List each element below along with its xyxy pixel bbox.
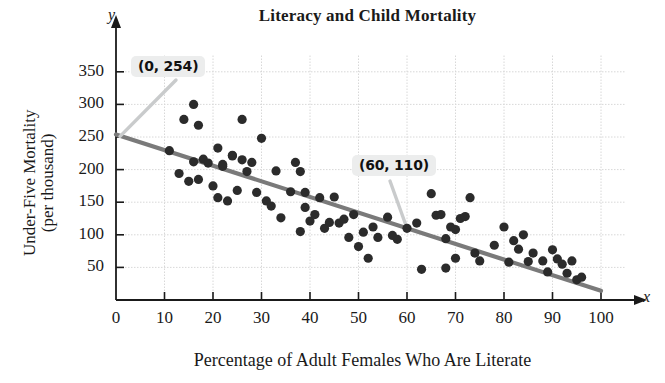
y-tick-label: 250 xyxy=(62,126,104,146)
data-point xyxy=(364,254,373,263)
x-tick-label: 60 xyxy=(387,308,427,328)
data-points xyxy=(165,100,586,285)
data-point xyxy=(204,158,213,167)
callout-leader-line xyxy=(390,181,407,228)
x-tick-label: 40 xyxy=(290,308,330,328)
data-point xyxy=(301,203,310,212)
data-point xyxy=(213,193,222,202)
data-point xyxy=(417,265,426,274)
data-point xyxy=(330,192,339,201)
y-tick-label: 100 xyxy=(62,224,104,244)
x-tick-label: 70 xyxy=(436,308,476,328)
data-point xyxy=(519,230,528,239)
data-point xyxy=(509,236,518,245)
data-point xyxy=(567,256,576,265)
data-point xyxy=(562,269,571,278)
data-point xyxy=(538,256,547,265)
data-point xyxy=(194,121,203,130)
data-point xyxy=(247,158,256,167)
y-tick-label: 350 xyxy=(62,61,104,81)
x-tick-label: 100 xyxy=(581,308,621,328)
y-tick-label: 300 xyxy=(62,93,104,113)
x-axis-arrowhead xyxy=(634,295,647,305)
data-point xyxy=(271,166,280,175)
data-point xyxy=(475,256,484,265)
data-point xyxy=(402,224,411,233)
data-point xyxy=(213,143,222,152)
data-point xyxy=(238,115,247,124)
data-point xyxy=(451,254,460,263)
x-tick-label: 0 xyxy=(96,308,136,328)
data-point xyxy=(499,222,508,231)
y-tick-label: 200 xyxy=(62,159,104,179)
x-tick-label: 30 xyxy=(242,308,282,328)
data-point xyxy=(504,258,513,267)
data-point xyxy=(436,210,445,219)
data-point xyxy=(276,213,285,222)
data-point xyxy=(577,273,586,282)
data-point xyxy=(373,233,382,242)
annotation-point-60-110: (60, 110) xyxy=(352,155,436,176)
data-point xyxy=(189,157,198,166)
x-tick-label: 20 xyxy=(193,308,233,328)
data-point xyxy=(296,167,305,176)
data-point xyxy=(441,263,450,272)
data-point xyxy=(451,225,460,234)
data-point xyxy=(490,241,499,250)
data-point xyxy=(301,188,310,197)
data-point xyxy=(286,187,295,196)
y-axis-arrowhead xyxy=(111,15,121,28)
x-tick-label: 50 xyxy=(339,308,379,328)
data-point xyxy=(543,267,552,276)
data-point xyxy=(368,222,377,231)
data-point xyxy=(359,228,368,237)
y-tick-label: 50 xyxy=(62,256,104,276)
data-point xyxy=(349,210,358,219)
data-point xyxy=(393,235,402,244)
data-point xyxy=(524,257,533,266)
y-tick-label: 150 xyxy=(62,191,104,211)
data-point xyxy=(252,188,261,197)
data-point xyxy=(344,233,353,242)
data-point xyxy=(257,134,266,143)
data-point xyxy=(412,218,421,227)
data-point xyxy=(194,175,203,184)
callout-leader-line xyxy=(120,80,176,136)
chart-figure: Literacy and Child Mortality Under-Five … xyxy=(0,0,665,383)
data-point xyxy=(470,248,479,257)
data-point xyxy=(233,186,242,195)
annotation-y-intercept: (0, 254) xyxy=(131,56,205,77)
data-point xyxy=(242,167,251,176)
data-point xyxy=(461,212,470,221)
data-point xyxy=(189,100,198,109)
data-point xyxy=(165,146,174,155)
data-point xyxy=(548,245,557,254)
data-point xyxy=(465,193,474,202)
data-point xyxy=(179,115,188,124)
data-point xyxy=(223,196,232,205)
data-point xyxy=(296,227,305,236)
data-point xyxy=(315,193,324,202)
data-point xyxy=(514,245,523,254)
data-point xyxy=(310,210,319,219)
data-point xyxy=(427,189,436,198)
gridlines xyxy=(116,56,625,301)
x-tick-label: 80 xyxy=(484,308,524,328)
data-point xyxy=(208,181,217,190)
data-point xyxy=(529,248,538,257)
data-point xyxy=(267,202,276,211)
data-point xyxy=(291,158,300,167)
data-point xyxy=(383,213,392,222)
data-point xyxy=(354,242,363,251)
data-point xyxy=(228,151,237,160)
data-point xyxy=(441,234,450,243)
data-point xyxy=(218,162,227,171)
data-point xyxy=(325,218,334,227)
data-point xyxy=(184,177,193,186)
x-tick-label: 10 xyxy=(145,308,185,328)
data-point xyxy=(238,155,247,164)
data-point xyxy=(339,215,348,224)
x-tick-label: 90 xyxy=(533,308,573,328)
data-point xyxy=(174,169,183,178)
data-point xyxy=(558,260,567,269)
